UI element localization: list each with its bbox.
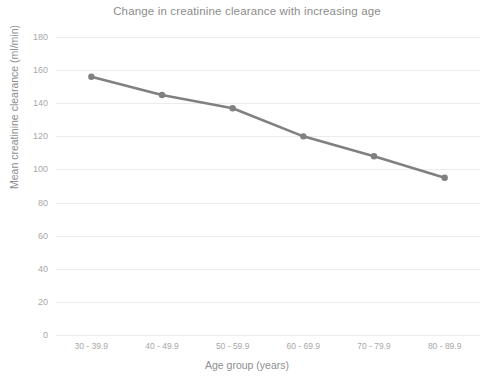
series-line [91, 77, 444, 178]
x-tick-label: 30 - 39.9 [75, 341, 109, 351]
x-tick-label: 60 - 69.9 [287, 341, 321, 351]
gridline [56, 335, 480, 336]
plot-area [56, 37, 480, 335]
data-point-marker[interactable] [371, 153, 377, 159]
x-tick-label: 70 - 79.9 [357, 341, 391, 351]
data-point-marker[interactable] [300, 133, 306, 139]
chart-title: Change in creatinine clearance with incr… [0, 5, 494, 17]
x-tick-label: 40 - 49.9 [145, 341, 179, 351]
y-tick-label: 20 [8, 297, 48, 307]
data-point-marker[interactable] [88, 74, 94, 80]
data-point-marker[interactable] [159, 92, 165, 98]
x-tick-label: 50 - 59.9 [216, 341, 250, 351]
y-tick-label: 40 [8, 264, 48, 274]
x-tick-label: 80 - 89.9 [428, 341, 462, 351]
y-axis-title: Mean creatinine clearance (ml/min) [8, 0, 20, 237]
data-point-marker[interactable] [229, 105, 235, 111]
line-chart: Change in creatinine clearance with incr… [0, 0, 494, 384]
series-line-group [56, 37, 480, 335]
y-tick-label: 0 [8, 330, 48, 340]
x-axis-title: Age group (years) [0, 359, 494, 371]
data-point-marker[interactable] [441, 175, 447, 181]
